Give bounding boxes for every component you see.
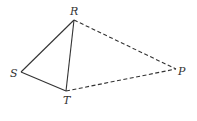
label-s: S — [10, 67, 18, 80]
segment-rs — [21, 20, 74, 72]
label-r: R — [69, 5, 78, 18]
segment-rt — [66, 20, 74, 91]
geometry-diagram: R S T P — [0, 0, 197, 121]
segment-st — [21, 72, 66, 91]
segment-tp — [66, 69, 176, 91]
segment-rp — [74, 20, 176, 69]
label-p: P — [177, 65, 186, 78]
label-t: T — [63, 94, 72, 107]
